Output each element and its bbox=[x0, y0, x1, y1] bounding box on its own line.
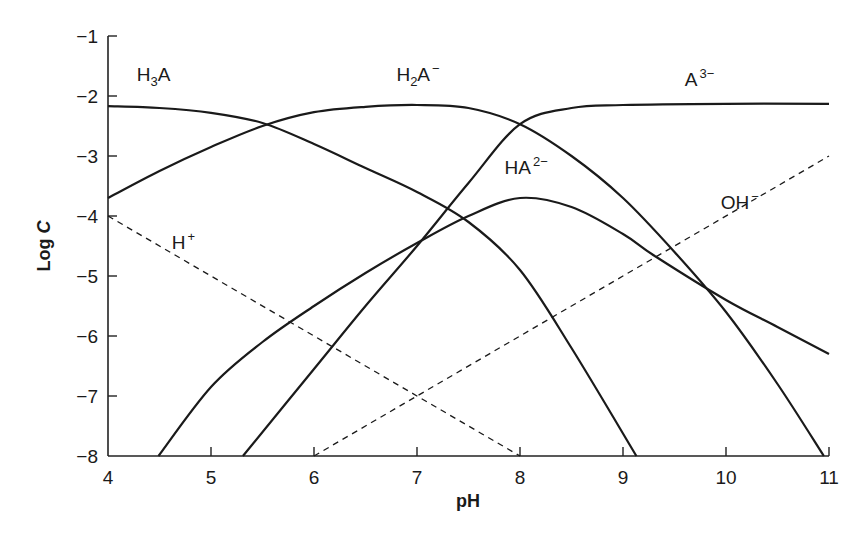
chart: 4567891011−1−2−3−4−5−6−7−8 H3AH2A−HA2−A3… bbox=[0, 0, 867, 545]
x-tick-label: 8 bbox=[515, 467, 526, 488]
x-tick-label: 5 bbox=[206, 467, 217, 488]
x-axis-title: pH bbox=[456, 491, 480, 511]
x-tick-label: 9 bbox=[618, 467, 629, 488]
y-axis-title: Log C bbox=[34, 220, 54, 272]
series-label: A3− bbox=[685, 66, 715, 90]
series-line-H bbox=[108, 216, 520, 456]
x-tick-label: 10 bbox=[715, 467, 736, 488]
series-label: OH− bbox=[721, 189, 759, 213]
x-tick-label: 4 bbox=[103, 467, 114, 488]
series-label: H2A− bbox=[396, 61, 439, 89]
y-tick-label: −2 bbox=[76, 86, 98, 107]
y-tick-label: −1 bbox=[76, 26, 98, 47]
series-line-H2A bbox=[108, 105, 824, 456]
y-tick-label: −4 bbox=[76, 206, 98, 227]
tick-labels: 4567891011−1−2−3−4−5−6−7−8 bbox=[76, 26, 839, 488]
axes bbox=[108, 36, 829, 456]
series-label: HA2− bbox=[505, 154, 548, 178]
y-tick-label: −3 bbox=[76, 146, 98, 167]
series-label: H3A bbox=[137, 64, 171, 89]
series-labels: H3AH2A−HA2−A3−H+OH− bbox=[137, 61, 759, 253]
x-tick-label: 6 bbox=[309, 467, 320, 488]
y-tick-label: −6 bbox=[76, 326, 98, 347]
y-tick-label: −5 bbox=[76, 266, 98, 287]
series-lines bbox=[108, 104, 829, 456]
y-tick-label: −7 bbox=[76, 386, 98, 407]
y-tick-label: −8 bbox=[76, 446, 98, 467]
series-line-HA2 bbox=[158, 198, 829, 456]
series-label: H+ bbox=[172, 229, 195, 253]
x-tick-label: 7 bbox=[412, 467, 423, 488]
x-tick-label: 11 bbox=[819, 467, 839, 488]
